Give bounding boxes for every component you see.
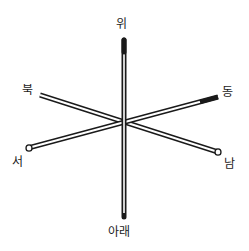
label-west: 서 [12,156,23,168]
label-down: 아래 [108,226,130,238]
label-south: 남 [224,158,235,170]
label-up: 위 [116,18,127,30]
label-east: 동 [222,86,233,98]
axes-diagram [0,0,249,251]
label-north: 북 [22,84,33,96]
